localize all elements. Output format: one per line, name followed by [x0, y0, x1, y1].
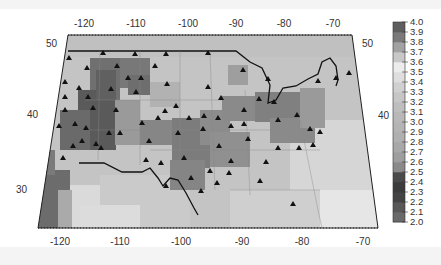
svg-text:-90: -90 [229, 18, 244, 29]
svg-text:-100: -100 [171, 236, 191, 247]
right-latitude-ticks: 50 40 [362, 38, 390, 121]
data-field [30, 30, 390, 235]
svg-text:-70: -70 [326, 18, 341, 29]
colorbar-segment [393, 202, 405, 212]
colorbar-segment [393, 82, 405, 92]
colorbar-segment [393, 122, 405, 132]
colorbar-segment [393, 142, 405, 152]
svg-text:30: 30 [16, 184, 28, 195]
top-longitude-ticks: -120 -110 -100 -90 -80 -70 [74, 18, 341, 29]
colorbar-segment [393, 172, 405, 182]
colorbar-segment [393, 42, 405, 52]
svg-text:50: 50 [46, 38, 58, 49]
colorbar [393, 22, 408, 222]
colorbar-labels: 4.0 3.9 3.8 3.7 3.6 3.5 3.4 3.3 3.2 3.1 … [410, 16, 423, 227]
colorbar-segment [393, 182, 405, 192]
svg-text:-110: -110 [126, 18, 146, 29]
svg-text:-120: -120 [74, 18, 94, 29]
bottom-longitude-ticks: -120 -110 -100 -90 -80 -70 [50, 236, 371, 247]
map-figure: -120 -110 -100 -90 -80 -70 -120 -110 -10… [0, 0, 441, 265]
colorbar-segment [393, 92, 405, 102]
colorbar-segment [393, 212, 405, 222]
colorbar-segment [393, 162, 405, 172]
svg-text:40: 40 [378, 110, 390, 121]
svg-text:-80: -80 [295, 236, 310, 247]
colorbar-segment [393, 52, 405, 62]
colorbar-segment [393, 192, 405, 202]
colorbar-segment [393, 22, 405, 32]
colorbar-segment [393, 102, 405, 112]
colorbar-segment [393, 152, 405, 162]
svg-text:-70: -70 [356, 236, 371, 247]
svg-text:-80: -80 [277, 18, 292, 29]
svg-text:-100: -100 [178, 18, 198, 29]
colorbar-segment [393, 132, 405, 142]
svg-text:-110: -110 [110, 236, 130, 247]
svg-text:40: 40 [27, 109, 39, 120]
svg-text:-90: -90 [235, 236, 250, 247]
svg-text:50: 50 [362, 38, 374, 49]
svg-text:2.0: 2.0 [410, 216, 423, 227]
colorbar-segment [393, 112, 405, 122]
colorbar-segment [393, 62, 405, 72]
colorbar-segment [393, 72, 405, 82]
colorbar-segment [393, 32, 405, 42]
svg-text:-120: -120 [50, 236, 70, 247]
